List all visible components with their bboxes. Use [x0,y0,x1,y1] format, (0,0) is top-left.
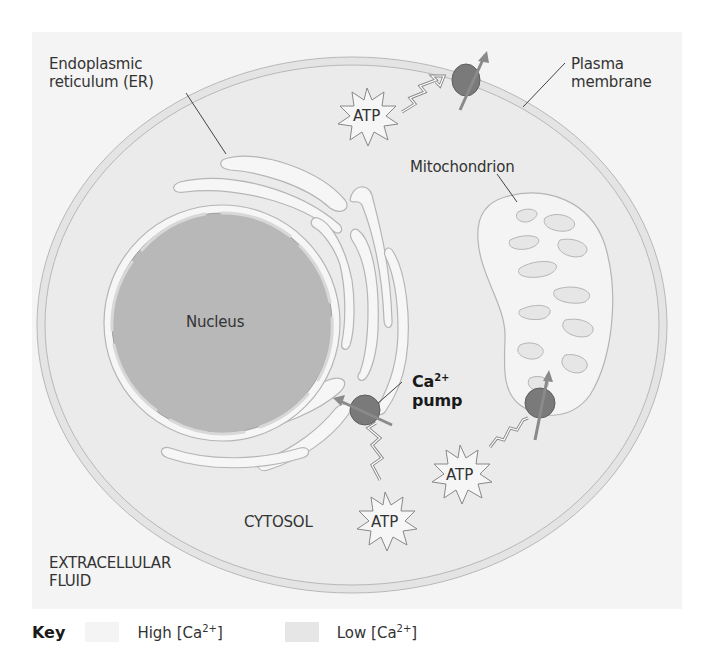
mitochondrion-label: Mitochondrion [410,158,515,176]
nucleus-label: Nucleus [186,313,244,331]
ca-ion-text: Ca [412,372,434,391]
legend-high-charge: 2+ [202,623,217,634]
ca-pump-word: pump [412,391,462,410]
extracellular-line2: FLUID [49,572,171,590]
er-label-line1: Endoplasmic [49,55,154,73]
atp-label-top: ATP [353,107,380,125]
legend-swatch-high [85,622,119,642]
ca-pump-label-line1: Ca2+ [412,368,462,391]
legend-low-suffix: ] [411,624,417,642]
legend-swatch-low [285,622,319,642]
cytosol-label: CYTOSOL [244,513,313,531]
er-label: Endoplasmic reticulum (ER) [49,55,154,91]
legend-low-charge: 2+ [397,623,412,634]
ca-pump-label: Ca2+ pump [412,368,462,410]
legend-label-high: High [Ca2+] [137,623,222,642]
extracellular-line1: EXTRACELLULAR [49,554,171,572]
legend-high-suffix: ] [217,624,223,642]
plasma-membrane-label: Plasma membrane [571,55,651,91]
plasma-label-line1: Plasma [571,55,651,73]
cell-diagram [0,0,711,649]
er-label-line2: reticulum (ER) [49,73,154,91]
legend-low-prefix: Low [Ca [337,624,397,642]
atp-label-mito: ATP [446,466,473,484]
legend-title: Key [32,623,65,642]
atp-label-er: ATP [371,513,398,531]
legend: Key High [Ca2+] Low [Ca2+] [32,620,479,644]
ca-charge-text: 2+ [434,372,449,383]
legend-label-low: Low [Ca2+] [337,623,417,642]
extracellular-fluid-label: EXTRACELLULAR FLUID [49,554,171,590]
plasma-label-line2: membrane [571,73,651,91]
legend-high-prefix: High [Ca [137,624,202,642]
